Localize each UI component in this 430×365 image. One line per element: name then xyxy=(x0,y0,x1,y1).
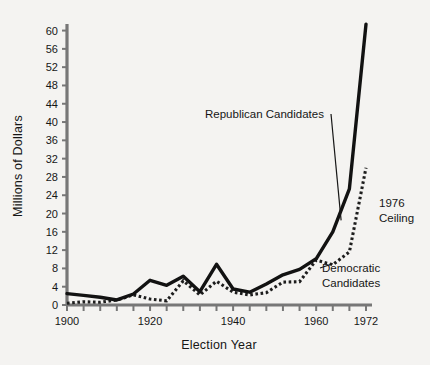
chart-container: 04812162024283236404448525660 1900192019… xyxy=(0,0,430,365)
y-tick-label: 56 xyxy=(46,43,58,55)
y-tick-label: 48 xyxy=(46,79,58,91)
y-tick-label: 28 xyxy=(46,171,58,183)
y-tick-label: 36 xyxy=(46,134,58,146)
y-tick-label: 24 xyxy=(46,189,58,201)
x-tick-label: 1940 xyxy=(221,315,245,327)
election-spending-line-chart: 04812162024283236404448525660 1900192019… xyxy=(0,0,430,365)
y-tick-label: 20 xyxy=(46,208,58,220)
y-tick-label: 4 xyxy=(52,281,58,293)
y-tick-label: 40 xyxy=(46,116,58,128)
democratic-candidates-label-line1: Democratic xyxy=(322,262,380,274)
democratic-candidates-label-line2: Candidates xyxy=(322,277,380,289)
y-tick-label: 16 xyxy=(46,226,58,238)
x-tick-label: 1960 xyxy=(304,315,328,327)
republican-candidates-label: Republican Candidates xyxy=(205,108,324,120)
y-axis-title: Millions of Dollars xyxy=(11,115,25,217)
y-tick-label: 8 xyxy=(52,262,58,274)
x-tick-label: 1920 xyxy=(138,315,162,327)
x-tick-label: 1972 xyxy=(354,315,378,327)
ceiling-label-line1: 1976 xyxy=(379,197,405,209)
y-tick-label: 44 xyxy=(46,98,58,110)
y-tick-label: 32 xyxy=(46,153,58,165)
y-tick-label: 0 xyxy=(52,299,58,311)
x-tick-label: 1900 xyxy=(55,315,79,327)
ceiling-label-line2: Ceiling xyxy=(379,212,414,224)
y-tick-label: 12 xyxy=(46,244,58,256)
y-tick-label: 60 xyxy=(46,25,58,37)
y-tick-label: 52 xyxy=(46,61,58,73)
x-axis-title: Election Year xyxy=(181,338,257,352)
